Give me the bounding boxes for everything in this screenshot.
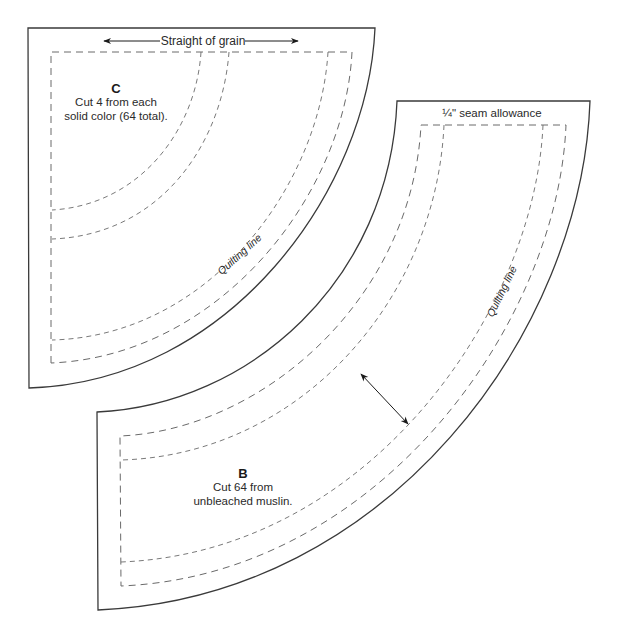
piece-b-seam-line: [120, 125, 566, 586]
piece-b-grain-arrow: [361, 374, 408, 424]
piece-c-letter: C: [111, 81, 121, 96]
piece-b-quilting-line-1: [121, 125, 444, 460]
piece-c-quilting-line-inner-1: [52, 52, 201, 210]
piece-c-line2: solid color (64 total).: [64, 110, 168, 122]
piece-b-outline: [97, 101, 590, 610]
piece-c-outline: [28, 28, 375, 388]
piece-b-quilting-line-2: [121, 125, 543, 562]
quilt-template-diagram: Straight of grain C Cut 4 from each soli…: [0, 0, 622, 636]
grain-label: Straight of grain: [161, 34, 246, 48]
piece-b-line1: Cut 64 from: [213, 481, 273, 493]
piece-b: ¼" seam allowance Quilting line B Cut 64…: [97, 101, 590, 610]
piece-c-quilting-line-inner-2: [52, 52, 229, 239]
piece-b-quilting-label: Quilting line: [484, 264, 519, 319]
seam-allowance-label: ¼" seam allowance: [442, 107, 541, 119]
piece-c-line1: Cut 4 from each: [75, 96, 157, 108]
piece-c-quilting-label: Quilting line: [215, 231, 264, 277]
piece-b-letter: B: [238, 466, 247, 481]
piece-c: Straight of grain C Cut 4 from each soli…: [28, 28, 375, 388]
piece-b-line2: unbleached muslin.: [193, 495, 292, 507]
